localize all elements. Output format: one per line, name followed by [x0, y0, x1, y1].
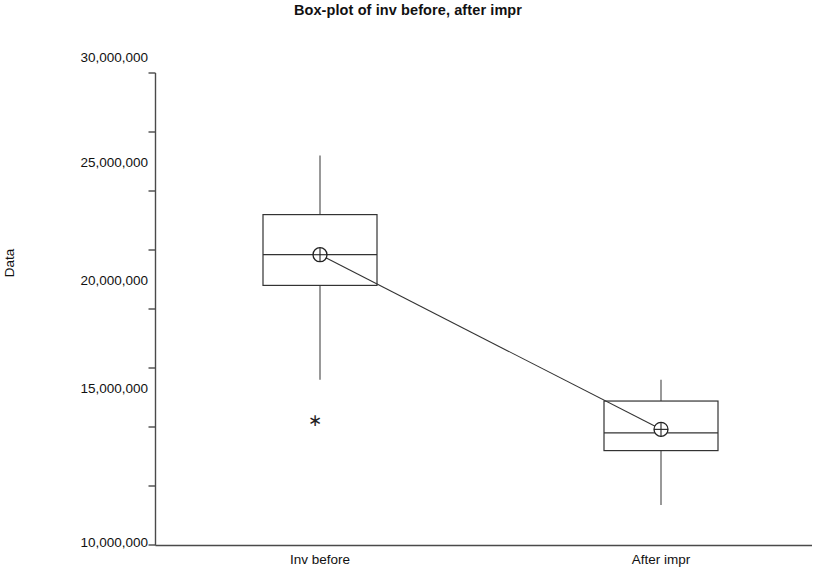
box-plot-2 — [604, 380, 718, 505]
mean-marker-1 — [313, 248, 327, 262]
outlier-marker: ∗ — [308, 411, 322, 430]
box-plot-1 — [263, 156, 377, 380]
boxplot-chart: Box-plot of inv before, after impr Data … — [0, 0, 816, 583]
axes — [149, 73, 813, 546]
box-plots — [263, 156, 718, 505]
mean-connector-line — [320, 255, 661, 430]
mean-connector-path — [320, 255, 661, 430]
mean-marker-2 — [654, 422, 668, 436]
plot-area: ∗ — [0, 0, 816, 583]
outlier-points: ∗ — [308, 411, 322, 430]
y-axis-ticks — [149, 73, 156, 545]
